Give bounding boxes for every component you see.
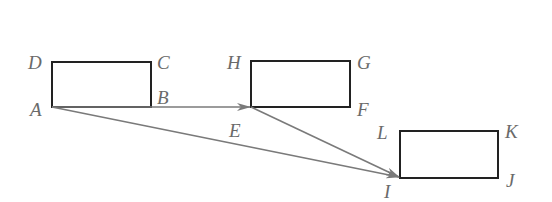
vertex-label-c: C [157, 53, 170, 72]
vertex-label-d: D [28, 53, 42, 72]
arrow-a-to-i [52, 107, 399, 177]
vertex-label-i: I [384, 182, 390, 201]
rectangle-ijkl [400, 131, 498, 178]
vertex-label-b: B [157, 88, 169, 107]
vertex-label-f: F [357, 100, 369, 119]
vertex-label-h: H [227, 53, 241, 72]
vertex-label-l: L [377, 123, 388, 142]
vertex-label-k: K [505, 122, 518, 141]
vertex-label-a: A [30, 100, 42, 119]
rectangle-abcd [52, 62, 151, 107]
rectangle-efgh [251, 61, 350, 107]
diagram-svg [0, 0, 552, 202]
diagram-canvas: D C B A H G F E L K J I [0, 0, 552, 202]
vertex-label-e: E [229, 121, 241, 140]
vertex-label-j: J [506, 171, 514, 190]
vertex-label-g: G [357, 53, 371, 72]
